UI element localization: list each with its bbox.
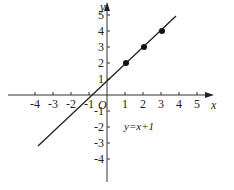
x-tick-label: -4 bbox=[30, 97, 40, 111]
x-tick-label: -1 bbox=[84, 97, 94, 111]
equation-label: y=x+1 bbox=[123, 120, 154, 132]
y-tick-label: -3 bbox=[94, 136, 104, 150]
point-3-4 bbox=[159, 28, 165, 34]
point-1-2 bbox=[123, 60, 129, 66]
y-tick-label: -4 bbox=[94, 152, 104, 166]
x-tick-labels: -4 -3 -2 -1 1 2 3 4 5 bbox=[30, 97, 200, 111]
y-tick-label: 4 bbox=[98, 24, 104, 38]
y-tick-labels: 5 4 3 2 1 -1 -2 -3 -4 bbox=[94, 8, 104, 166]
y-tick-label: -2 bbox=[94, 120, 104, 134]
x-tick-label: -3 bbox=[48, 97, 58, 111]
y-tick-label: 3 bbox=[98, 40, 104, 54]
point-2-3 bbox=[141, 44, 147, 50]
x-tick-label: 2 bbox=[140, 97, 146, 111]
x-axis-label: x bbox=[210, 98, 217, 112]
x-tick-label: 5 bbox=[194, 97, 200, 111]
coordinate-plane: -4 -3 -2 -1 1 2 3 4 5 5 4 3 2 1 -1 -2 -3… bbox=[0, 0, 234, 190]
x-tick-label: -2 bbox=[66, 97, 76, 111]
x-tick-label: 3 bbox=[158, 97, 164, 111]
origin-label: O bbox=[98, 98, 107, 112]
y-tick-label: 2 bbox=[98, 56, 104, 70]
y-axis-label: y bbox=[99, 0, 106, 14]
x-tick-label: 1 bbox=[122, 97, 128, 111]
x-tick-label: 4 bbox=[176, 97, 182, 111]
